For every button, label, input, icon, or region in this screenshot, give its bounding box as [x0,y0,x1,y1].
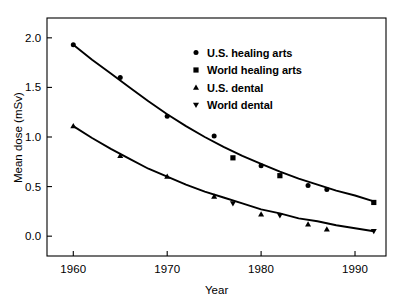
x-tick-label: 1970 [154,263,180,275]
data-point-triangle-up [258,211,264,216]
legend-entry-label: World dental [207,99,273,111]
legend-entry-label: U.S. dental [207,82,263,94]
x-tick-label: 1990 [342,263,368,275]
data-point-triangle-up [305,221,311,226]
chart-figure: 19601970198019900.00.51.01.52.0 Year Mea… [0,0,404,308]
data-point-triangle-up [193,84,199,89]
data-point-circle [259,163,264,168]
legend-entry-label: U.S. healing arts [207,47,292,59]
data-point-circle [306,183,311,188]
data-point-circle [194,50,199,55]
y-tick-label: 1.0 [25,131,41,143]
data-point-circle [165,114,170,119]
legend-entry-label: World healing arts [207,64,302,76]
data-point-triangle-up [70,123,76,128]
y-tick-label: 1.5 [25,81,41,93]
data-point-circle [71,42,76,47]
data-point-triangle-down [230,201,236,206]
data-point-triangle-down [193,103,199,108]
y-axis-title: Mean dose (mSv) [12,92,24,183]
data-point-triangle-up [324,226,330,231]
data-point-square [371,200,376,205]
data-point-triangle-down [277,213,283,218]
data-point-circle [212,134,217,139]
y-tick-label: 2.0 [25,32,41,44]
chart-canvas [0,0,404,308]
y-tick-label: 0.5 [25,181,41,193]
data-point-circle [118,75,123,80]
data-point-square [230,155,235,160]
data-point-circle [324,187,329,192]
data-point-square [277,173,282,178]
x-axis-title: Year [205,284,228,296]
x-tick-label: 1960 [60,263,86,275]
x-tick-label: 1980 [248,263,274,275]
data-point-square [193,67,198,72]
y-tick-label: 0.0 [25,230,41,242]
trend-line [73,126,374,231]
